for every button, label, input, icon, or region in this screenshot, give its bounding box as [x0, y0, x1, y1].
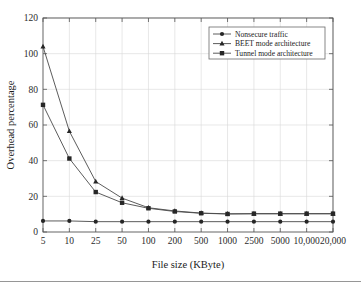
data-point-marker: [146, 206, 150, 210]
data-point-marker: [199, 211, 203, 215]
data-point-marker: [252, 211, 256, 215]
data-point-marker: [120, 201, 124, 205]
y-tick-label: 100: [24, 49, 39, 59]
data-point-marker: [41, 219, 45, 223]
data-point-marker: [41, 103, 45, 107]
data-point-marker: [252, 220, 256, 224]
data-point-marker: [120, 220, 124, 224]
x-tick-label: 500: [194, 236, 209, 246]
x-axis-title: File size (KByte): [152, 259, 225, 271]
data-point-marker: [331, 220, 335, 224]
y-tick-label: 20: [29, 192, 39, 202]
data-point-marker: [67, 219, 71, 223]
data-point-marker: [67, 156, 71, 160]
data-point-marker: [173, 209, 177, 213]
data-point-marker: [305, 220, 309, 224]
data-point-marker: [331, 211, 335, 215]
x-tick-label: 25: [91, 236, 101, 246]
x-tick-label: 100: [141, 236, 156, 246]
x-tick-label: 10: [65, 236, 75, 246]
data-point-marker: [278, 220, 282, 224]
figure-container: 020406080100120 510255010020050010002500…: [0, 0, 361, 287]
x-tick-label: 20,000: [320, 236, 346, 246]
data-point-marker: [225, 220, 229, 224]
legend-label: Nonsecure traffic: [235, 30, 288, 39]
y-tick-label: 40: [29, 156, 39, 166]
data-point-marker: [199, 220, 203, 224]
x-tick-label: 1000: [218, 236, 237, 246]
x-tick-label: 2500: [244, 236, 263, 246]
y-tick-label: 60: [29, 120, 39, 130]
data-point-marker: [278, 211, 282, 215]
y-axis-title: Overhead percentage: [5, 80, 16, 169]
square-marker-icon: [220, 51, 224, 55]
x-tick-label: 50: [117, 236, 127, 246]
overhead-percentage-line-chart: 020406080100120 510255010020050010002500…: [0, 0, 361, 287]
data-point-marker: [304, 211, 308, 215]
y-tick-label: 80: [29, 85, 39, 95]
circle-marker-icon: [220, 32, 224, 36]
legend-label: Tunnel mode architecture: [235, 49, 313, 58]
y-tick-label: 120: [24, 13, 39, 23]
x-tick-label: 10,000: [294, 236, 320, 246]
y-tick-label: 0: [33, 227, 38, 237]
legend-label: BEET mode architecture: [235, 39, 311, 48]
data-point-marker: [173, 220, 177, 224]
chart-legend: Nonsecure trafficBEET mode architectureT…: [209, 27, 325, 59]
data-point-marker: [94, 220, 98, 224]
data-point-marker: [146, 220, 150, 224]
data-point-marker: [225, 212, 229, 216]
data-point-marker: [94, 190, 98, 194]
x-tick-label: 5: [41, 236, 46, 246]
x-tick-label: 200: [168, 236, 183, 246]
x-tick-label: 5000: [271, 236, 290, 246]
